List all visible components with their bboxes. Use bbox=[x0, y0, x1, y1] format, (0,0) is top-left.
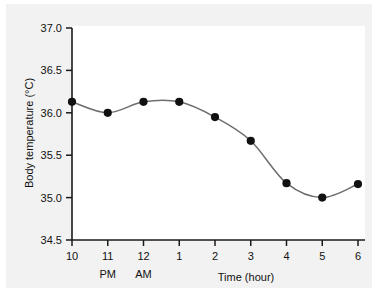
x-tick-label: 5 bbox=[319, 250, 325, 262]
data-point-marker bbox=[175, 98, 183, 106]
x-axis-title: Time (hour) bbox=[218, 271, 274, 283]
x-tick-label: 11 bbox=[102, 250, 113, 262]
y-tick-label: 36.0 bbox=[41, 107, 62, 119]
y-axis-title: Body temperature (°C) bbox=[23, 78, 35, 188]
y-axis-ticks bbox=[66, 28, 72, 240]
y-axis-tick-labels: 37.036.536.035.535.034.5 bbox=[41, 22, 62, 246]
x-tick-label: 6 bbox=[355, 250, 361, 262]
y-tick-label: 36.5 bbox=[41, 64, 62, 76]
data-point-marker bbox=[104, 109, 112, 117]
x-tick-label: 12 bbox=[137, 250, 149, 262]
data-point-marker bbox=[247, 137, 255, 145]
data-point-marker bbox=[68, 98, 76, 106]
chart-figure: 37.036.536.035.535.034.5 101112123456 PM… bbox=[0, 0, 380, 296]
x-tick-label: 1 bbox=[176, 250, 182, 262]
x-period-label: PM bbox=[100, 268, 117, 280]
x-tick-label: 4 bbox=[283, 250, 289, 262]
y-tick-label: 35.5 bbox=[41, 149, 62, 161]
data-point-marker bbox=[354, 180, 362, 188]
y-tick-label: 35.0 bbox=[41, 192, 62, 204]
x-tick-label: 2 bbox=[212, 250, 218, 262]
x-tick-label: 10 bbox=[66, 250, 78, 262]
x-axis-period-labels: PMAM bbox=[100, 268, 152, 280]
data-point-marker bbox=[318, 194, 326, 202]
data-point-marker bbox=[282, 179, 290, 187]
x-axis-ticks bbox=[72, 240, 358, 246]
x-tick-label: 3 bbox=[248, 250, 254, 262]
y-tick-label: 37.0 bbox=[41, 22, 62, 34]
x-period-label: AM bbox=[135, 268, 152, 280]
plot-area-background bbox=[72, 26, 365, 240]
data-point-marker bbox=[139, 98, 147, 106]
y-tick-label: 34.5 bbox=[41, 234, 62, 246]
x-axis-tick-labels: 101112123456 bbox=[66, 250, 361, 262]
line-chart: 37.036.536.035.535.034.5 101112123456 PM… bbox=[0, 0, 380, 296]
data-point-marker bbox=[211, 113, 219, 121]
